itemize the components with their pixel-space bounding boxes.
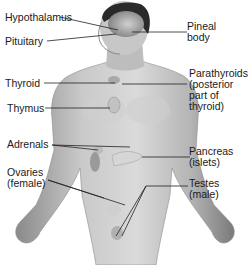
- label-ovaries-note: (female): [7, 178, 46, 189]
- label-parathyroids-line4: thyroid): [189, 101, 224, 112]
- label-hypothalamus: Hypothalamus: [5, 12, 72, 23]
- label-thyroid: Thyroid: [5, 78, 40, 89]
- label-testes-line2: (male): [189, 189, 219, 200]
- label-pineal-line2: body: [187, 32, 210, 43]
- bladder-shape: [107, 204, 121, 216]
- label-adrenals: Adrenals: [7, 139, 48, 150]
- label-pituitary: Pituitary: [5, 36, 43, 47]
- label-pancreas-line2: (islets): [189, 157, 220, 168]
- label-thymus: Thymus: [7, 103, 44, 114]
- brain-shape: [108, 11, 144, 37]
- endocrine-diagram: Hypothalamus Pituitary Thyroid Thymus Ad…: [0, 0, 250, 265]
- kidney-left: [90, 152, 100, 172]
- thymus-gland: [108, 97, 120, 113]
